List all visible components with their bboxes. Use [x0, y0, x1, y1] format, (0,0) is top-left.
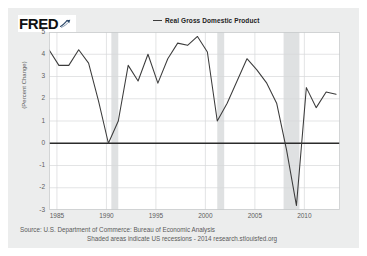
legend-label-gdp: Real Gross Domestic Product [165, 17, 259, 24]
y-axis-tick-label: 4 [41, 51, 45, 58]
y-axis-label: (Percent Change) [21, 47, 27, 123]
y-axis-tick-label: 3 [41, 73, 45, 80]
x-axis-tick-label: 1985 [50, 213, 64, 220]
recession-note: Shaded areas indicate US recessions - 20… [87, 235, 277, 242]
x-axis-tick-label: 2005 [248, 213, 262, 220]
legend-line-swatch [153, 20, 162, 21]
fred-logo: FRED [18, 15, 76, 32]
chart-legend: Real Gross Domestic Product [153, 17, 259, 24]
y-axis-tick-label: 5 [41, 29, 45, 36]
plot-area [49, 32, 340, 210]
y-axis-ticks: 543210-1-2-3 [28, 32, 45, 210]
fred-chart-card: FRED Real Gross Domestic Product 543210-… [8, 8, 359, 248]
y-axis-tick-label: -3 [39, 207, 45, 214]
x-axis-tick-label: 1995 [149, 213, 163, 220]
y-axis-tick-label: 0 [41, 140, 45, 147]
y-axis-tick-label: 2 [41, 95, 45, 102]
gdp-line-chart [49, 32, 340, 210]
x-axis-tick-label: 2010 [297, 213, 311, 220]
x-axis-ticks: 198519901995200020052010 [49, 213, 340, 225]
fred-wordmark: FRED [19, 15, 58, 32]
source-attribution: Source: U.S. Department of Commerce: Bur… [20, 226, 215, 233]
y-axis-tick-label: 1 [41, 118, 45, 125]
y-axis-tick-label: -2 [39, 184, 45, 191]
x-axis-tick-label: 2000 [198, 213, 212, 220]
y-axis-tick-label: -1 [39, 162, 45, 169]
x-axis-tick-label: 1990 [99, 213, 113, 220]
fred-swoosh-icon [60, 19, 71, 28]
